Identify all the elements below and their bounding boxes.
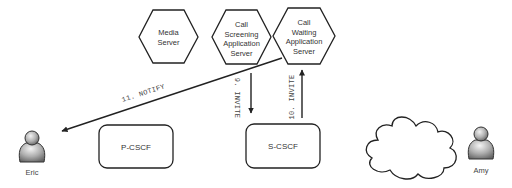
- call-waiting-label-line-2: Waiting: [292, 28, 317, 37]
- p-cscf-label: P-CSCF: [121, 143, 151, 152]
- message-11-notify: 11. NOTIFY: [62, 58, 282, 131]
- call-waiting-label-line-4: Server: [293, 47, 316, 56]
- actor-eric: Eric: [19, 131, 45, 177]
- message-9-label: 9. INVITE: [233, 78, 241, 119]
- call-waiting-label-line-3: Application: [286, 37, 323, 46]
- actor-amy: Amy: [468, 127, 494, 175]
- amy-label: Amy: [474, 166, 489, 175]
- message-11-label: 11. NOTIFY: [121, 82, 167, 104]
- call-waiting-label-line-1: Call: [298, 18, 311, 27]
- call-screening-label-line-1: Call: [235, 20, 248, 29]
- message-10-label: 10. INVITE: [288, 74, 296, 119]
- media-server-label-line-1: Media: [158, 28, 179, 37]
- call-screening-as-node: Call Screening Application Server: [212, 10, 271, 64]
- p-cscf-node: P-CSCF: [99, 125, 173, 168]
- call-screening-label-line-4: Server: [230, 49, 253, 58]
- message-9-invite: 9. INVITE: [233, 73, 252, 118]
- arrow-diagonal-icon: [62, 58, 282, 131]
- cloud-icon: [366, 117, 456, 179]
- call-screening-label-line-2: Screening: [225, 30, 259, 39]
- user-icon: [19, 131, 45, 162]
- media-server-node: Media Server: [139, 10, 198, 63]
- eric-label: Eric: [26, 168, 39, 177]
- network-cloud: [366, 117, 456, 179]
- call-waiting-as-node: Call Waiting Application Server: [273, 8, 335, 64]
- user-icon: [468, 127, 494, 159]
- media-server-label-line-2: Server: [157, 38, 180, 47]
- ims-call-flow-diagram: Media Server Call Screening Application …: [0, 0, 512, 188]
- message-10-invite: 10. INVITE: [288, 70, 303, 120]
- s-cscf-label: S-CSCF: [268, 142, 298, 151]
- call-screening-label-line-3: Application: [223, 39, 260, 48]
- s-cscf-node: S-CSCF: [246, 124, 320, 168]
